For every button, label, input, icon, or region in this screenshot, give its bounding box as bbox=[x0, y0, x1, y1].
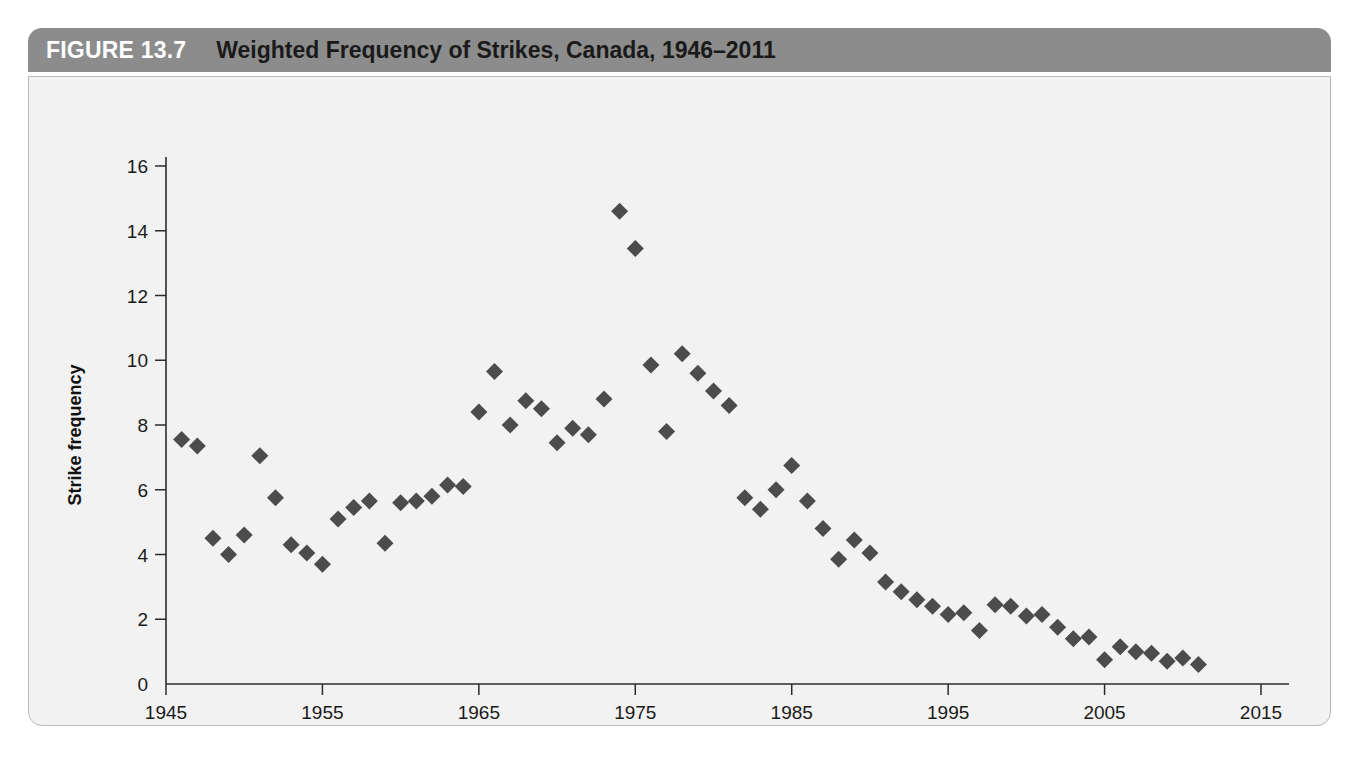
x-tick-label: 2005 bbox=[1083, 702, 1125, 723]
data-point bbox=[736, 489, 753, 506]
y-tick-label: 12 bbox=[127, 286, 148, 307]
data-point bbox=[439, 476, 456, 493]
data-point bbox=[971, 622, 988, 639]
data-point bbox=[1065, 630, 1082, 647]
scatter-chart: 0246810121416194519551965197519851995200… bbox=[29, 77, 1331, 726]
data-point bbox=[361, 493, 378, 510]
data-point bbox=[1159, 653, 1176, 670]
y-tick-label: 0 bbox=[137, 674, 148, 695]
data-point bbox=[987, 596, 1004, 613]
y-axis-title: Strike frequency bbox=[65, 364, 85, 505]
data-point bbox=[580, 426, 597, 443]
data-point bbox=[611, 203, 628, 220]
data-point bbox=[173, 431, 190, 448]
data-point bbox=[486, 363, 503, 380]
data-point bbox=[721, 397, 738, 414]
data-point bbox=[1143, 645, 1160, 662]
data-point bbox=[423, 488, 440, 505]
data-point bbox=[752, 501, 769, 518]
data-point bbox=[330, 510, 347, 527]
data-point bbox=[1127, 643, 1144, 660]
y-tick-label: 4 bbox=[137, 545, 148, 566]
data-point bbox=[1002, 598, 1019, 615]
data-point bbox=[564, 420, 581, 437]
data-point bbox=[455, 478, 472, 495]
y-tick-label: 6 bbox=[137, 480, 148, 501]
data-point bbox=[815, 520, 832, 537]
data-point bbox=[924, 598, 941, 615]
data-point bbox=[705, 383, 722, 400]
data-point bbox=[893, 583, 910, 600]
data-point bbox=[642, 357, 659, 374]
data-point bbox=[1174, 650, 1191, 667]
x-tick-label: 1985 bbox=[771, 702, 813, 723]
data-point bbox=[1096, 651, 1113, 668]
data-point bbox=[658, 423, 675, 440]
data-point bbox=[314, 556, 331, 573]
x-tick-label: 1955 bbox=[301, 702, 343, 723]
data-point bbox=[470, 404, 487, 421]
chart-panel: 0246810121416194519551965197519851995200… bbox=[28, 76, 1331, 726]
data-point bbox=[408, 493, 425, 510]
data-point bbox=[220, 546, 237, 563]
data-point bbox=[783, 457, 800, 474]
data-point bbox=[549, 434, 566, 451]
data-point bbox=[236, 527, 253, 544]
data-point bbox=[502, 417, 519, 434]
data-point bbox=[877, 574, 894, 591]
figure-card: FIGURE 13.7 Weighted Frequency of Strike… bbox=[28, 28, 1331, 726]
y-tick-label: 8 bbox=[137, 415, 148, 436]
data-point bbox=[283, 536, 300, 553]
data-point bbox=[377, 535, 394, 552]
data-point bbox=[533, 400, 550, 417]
figure-header-bar: FIGURE 13.7 Weighted Frequency of Strike… bbox=[28, 28, 1331, 72]
y-tick-label: 14 bbox=[127, 221, 149, 242]
data-point bbox=[1049, 619, 1066, 636]
data-point bbox=[392, 494, 409, 511]
figure-screenshot: FIGURE 13.7 Weighted Frequency of Strike… bbox=[0, 0, 1359, 770]
data-point bbox=[908, 591, 925, 608]
data-point bbox=[768, 481, 785, 498]
data-point bbox=[940, 606, 957, 623]
data-point bbox=[345, 499, 362, 516]
data-point bbox=[204, 530, 221, 547]
y-tick-label: 10 bbox=[127, 350, 148, 371]
data-point bbox=[267, 489, 284, 506]
x-tick-label: 1965 bbox=[458, 702, 500, 723]
x-tick-label: 1995 bbox=[927, 702, 969, 723]
x-tick-label: 2015 bbox=[1240, 702, 1282, 723]
data-point bbox=[689, 365, 706, 382]
data-point bbox=[1190, 656, 1207, 673]
x-tick-label: 1975 bbox=[614, 702, 656, 723]
data-point bbox=[674, 345, 691, 362]
data-point bbox=[830, 551, 847, 568]
data-point bbox=[1018, 608, 1035, 625]
data-point bbox=[846, 531, 863, 548]
data-point bbox=[1112, 638, 1129, 655]
y-tick-label: 16 bbox=[127, 156, 148, 177]
data-point bbox=[1080, 629, 1097, 646]
data-point bbox=[799, 493, 816, 510]
y-tick-label: 2 bbox=[137, 609, 148, 630]
data-point bbox=[298, 544, 315, 561]
data-point bbox=[627, 240, 644, 257]
data-point bbox=[1034, 606, 1051, 623]
data-point bbox=[251, 447, 268, 464]
figure-number-label: FIGURE 13.7 bbox=[46, 37, 186, 64]
data-point bbox=[955, 604, 972, 621]
data-point bbox=[861, 544, 878, 561]
x-tick-label: 1945 bbox=[145, 702, 187, 723]
data-point bbox=[189, 438, 206, 455]
figure-title: Weighted Frequency of Strikes, Canada, 1… bbox=[216, 37, 775, 64]
data-point bbox=[596, 391, 613, 408]
data-point bbox=[517, 392, 534, 409]
